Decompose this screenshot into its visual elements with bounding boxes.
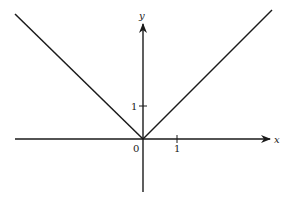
origin-label: 0 — [133, 143, 139, 154]
y-axis-label: y — [138, 10, 145, 21]
right-branch-line — [143, 10, 272, 139]
left-branch-line — [15, 14, 143, 139]
y-tick-label: 1 — [131, 101, 137, 112]
x-tick-label: 1 — [174, 143, 180, 154]
x-axis-label: x — [274, 134, 280, 145]
graph-canvas: y x 0 1 1 — [0, 0, 284, 203]
